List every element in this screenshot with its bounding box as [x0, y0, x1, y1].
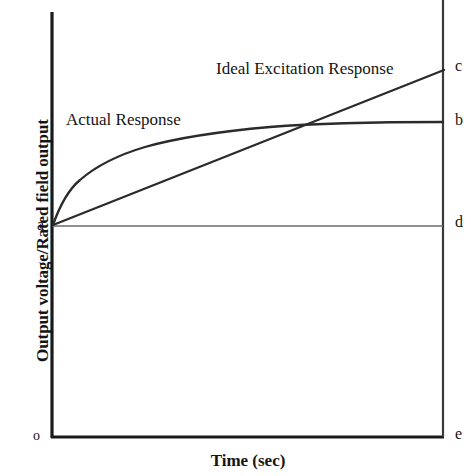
- axis-marker-a: a: [37, 217, 44, 233]
- axis-marker-c: c: [455, 58, 462, 74]
- y-axis-title: Output voltage/Rated field output: [34, 91, 51, 391]
- axis-marker-d: d: [455, 214, 463, 230]
- annotation-ideal-excitation-response: Ideal Excitation Response: [216, 60, 394, 77]
- curve-ideal-excitation-response: [53, 70, 444, 225]
- x-axis-title: Time (sec): [52, 452, 444, 469]
- axis-marker-o: o: [33, 429, 40, 443]
- annotation-actual-response: Actual Response: [66, 111, 181, 128]
- axis-marker-e: e: [455, 426, 462, 442]
- curve-actual-response: [53, 122, 443, 225]
- axis-marker-b: b: [455, 112, 463, 128]
- chart-figure: Output voltage/Rated field output Time (…: [0, 0, 471, 476]
